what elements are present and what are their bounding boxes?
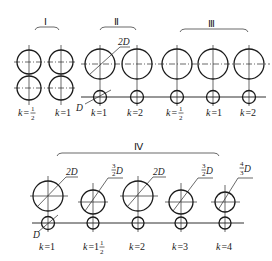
svg-text:k: k [83, 241, 88, 252]
k-label-half: k = 1 2 [18, 105, 36, 122]
group-IV-label: Ⅳ [134, 141, 144, 152]
svg-text:2: 2 [140, 241, 145, 252]
svg-text:k: k [216, 241, 221, 252]
svg-text:1: 1 [217, 107, 222, 118]
svg-text:k: k [55, 107, 60, 118]
k-label-1: k = 1 [55, 107, 71, 118]
group-II: Ⅱ 2D D k = 1 k = 2 [75, 16, 270, 118]
svg-text:k: k [18, 107, 23, 118]
group-I: Ⅰ k = 1 2 k = 1 [14, 16, 76, 122]
svg-text:1: 1 [50, 241, 55, 252]
svg-text:k: k [166, 107, 171, 118]
svg-text:1: 1 [31, 105, 35, 113]
roller-pair-k3: 3 2 D k = 3 [165, 162, 213, 252]
group-III-bracket [180, 29, 248, 32]
roller-pair-k1: 2D D k = 1 [30, 167, 78, 252]
svg-text:=: = [24, 107, 30, 118]
group-I-bracket [35, 27, 59, 30]
svg-text:1: 1 [102, 107, 107, 118]
svg-text:1: 1 [66, 107, 71, 118]
k-label-2: k = 2 [240, 107, 256, 118]
svg-text:k: k [91, 107, 96, 118]
svg-text:D: D [115, 166, 123, 176]
svg-text:1: 1 [94, 241, 99, 252]
group-III-label: Ⅲ [208, 18, 215, 29]
svg-text:3: 3 [183, 241, 188, 252]
svg-text:=: = [172, 107, 178, 118]
k-label-1: k = 1 [91, 107, 107, 118]
svg-text:2: 2 [100, 248, 104, 256]
svg-text:k: k [206, 107, 211, 118]
svg-text:1: 1 [179, 105, 183, 113]
dim-2D: 2D [118, 37, 130, 47]
group-III: Ⅲ k = 1 2 k = 1 k = 2 [162, 18, 264, 122]
group-II-bracket [100, 27, 136, 30]
svg-text:2: 2 [179, 114, 183, 122]
svg-text:D: D [205, 166, 213, 176]
k-label-half: k = 1 2 [166, 105, 184, 122]
group-I-label: Ⅰ [44, 16, 47, 27]
svg-text:k: k [172, 241, 177, 252]
svg-text:2: 2 [251, 107, 256, 118]
svg-text:4: 4 [227, 241, 232, 252]
group-II-label: Ⅱ [114, 16, 119, 27]
svg-text:1: 1 [100, 239, 104, 247]
svg-text:2: 2 [31, 114, 35, 122]
svg-text:k: k [240, 107, 245, 118]
svg-text:2: 2 [138, 107, 143, 118]
k-label-1: k = 1 [206, 107, 222, 118]
svg-text:k: k [39, 241, 44, 252]
group-IV-bracket [57, 153, 219, 156]
k-label-2: k = 2 [127, 107, 143, 118]
roller-pair-k4: 4 3 D k = 4 [211, 160, 253, 252]
dim-D: D [75, 103, 83, 113]
dim-D: D [32, 230, 40, 240]
svg-text:k: k [127, 107, 132, 118]
svg-text:k: k [129, 241, 134, 252]
dim-2D: 2D [153, 167, 165, 177]
dim-2D: 2D [66, 167, 78, 177]
roller-arrangement-diagram: Ⅰ k = 1 2 k = 1 Ⅱ [0, 0, 272, 261]
roller-pair-k1-half: 3 2 D k = 1 1 2 [78, 162, 123, 256]
group-IV: Ⅳ 2D D k = 1 3 2 D [30, 141, 253, 256]
svg-text:D: D [243, 164, 251, 174]
roller-pair-k2: 2D k = 2 [120, 167, 166, 252]
